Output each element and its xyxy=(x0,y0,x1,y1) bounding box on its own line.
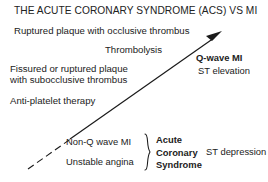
pathology-label-subocclusive-thrombus: Fissured or ruptured plaquewith subocclu… xyxy=(10,63,128,85)
acs-group-label-line-2: Coronary xyxy=(156,147,198,158)
outcome-detail-st-depression: ST depression xyxy=(206,147,266,158)
acs-group-label-line-1: Acute xyxy=(156,134,182,145)
pathology-label-subocclusive-line-1: Fissured or ruptured plaque xyxy=(10,63,128,74)
treatment-label-thrombolysis: Thrombolysis xyxy=(105,44,162,55)
diagram-title: THE ACUTE CORONARY SYNDROME (ACS) VS MI xyxy=(14,5,257,17)
acs-group-label-line-3: Syndrome xyxy=(156,159,202,170)
acs-group-label: AcuteCoronarySyndrome xyxy=(156,134,202,172)
pathology-label-occlusive-thrombus: Ruptured plaque with occlusive thrombus xyxy=(14,25,189,36)
outcome-label-unstable-angina: Unstable angina xyxy=(66,157,134,168)
acs-vs-mi-diagram: THE ACUTE CORONARY SYNDROME (ACS) VS MI … xyxy=(0,0,268,182)
outcome-label-q-wave-mi: Q-wave MI xyxy=(196,53,242,64)
outcome-label-non-q-wave-mi: Non-Q wave MI xyxy=(66,137,131,148)
acs-grouping-brace-icon xyxy=(145,134,150,170)
treatment-label-anti-platelet-therapy: Anti-platelet therapy xyxy=(10,95,95,106)
pathology-label-subocclusive-line-2: with subocclusive thrombus xyxy=(10,74,127,85)
outcome-detail-st-elevation: ST elevation xyxy=(198,66,250,77)
severity-axis-arrowhead xyxy=(206,31,222,41)
